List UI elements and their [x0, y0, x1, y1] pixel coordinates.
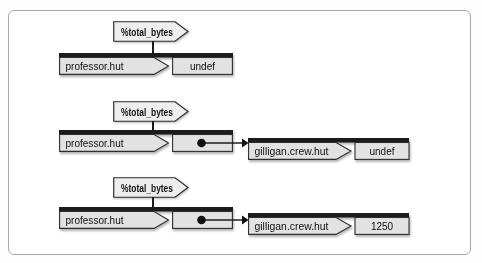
reference-dot-icon	[197, 216, 206, 225]
hash-key-label: professor.hut	[66, 138, 124, 149]
flag-connector-line	[152, 121, 154, 130]
box-top-bar	[59, 53, 233, 58]
hash-entry-row: gilligan.crew.hut 1250	[248, 213, 412, 238]
hash-entry-row: professor.hut undef	[59, 53, 235, 78]
flag-connector-line	[152, 197, 154, 207]
hash-entry-row: professor.hut	[59, 207, 235, 232]
reference-arrow	[233, 136, 249, 150]
hash-name-label: %total_bytes	[121, 27, 173, 38]
diagram-canvas: %total_bytes professor.hut undef %total_…	[0, 0, 482, 263]
hash-entry-row: professor.hut	[59, 130, 235, 155]
hash-key-label: professor.hut	[66, 215, 124, 226]
hash-key-label: professor.hut	[66, 61, 124, 72]
box-top-bar	[59, 207, 233, 212]
hash-key-label: gilligan.crew.hut	[255, 146, 329, 157]
hash-value-label: undef	[190, 61, 215, 72]
hash-value-label: undef	[369, 146, 394, 157]
box-top-bar	[248, 213, 409, 218]
hash-value-label: 1250	[371, 221, 394, 232]
hash-name-label: %total_bytes	[121, 183, 173, 194]
box-top-bar	[59, 130, 233, 135]
reference-arrow	[233, 213, 249, 227]
box-top-bar	[248, 138, 409, 143]
hash-entry-row: gilligan.crew.hut undef	[248, 138, 412, 163]
reference-dot-icon	[197, 139, 206, 148]
hash-name-label: %total_bytes	[121, 107, 173, 118]
hash-key-label: gilligan.crew.hut	[255, 221, 329, 232]
flag-connector-line	[152, 41, 154, 53]
